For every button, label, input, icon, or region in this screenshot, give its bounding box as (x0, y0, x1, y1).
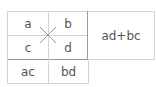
cell-result: ad+bc (88, 12, 154, 59)
cell-ac: ac (8, 60, 48, 83)
x-cross-icon (38, 25, 58, 45)
result-right-border (154, 11, 155, 60)
product-right-border (88, 59, 89, 84)
result-bottom-border (87, 59, 154, 60)
cell-bd: bd (49, 60, 88, 83)
